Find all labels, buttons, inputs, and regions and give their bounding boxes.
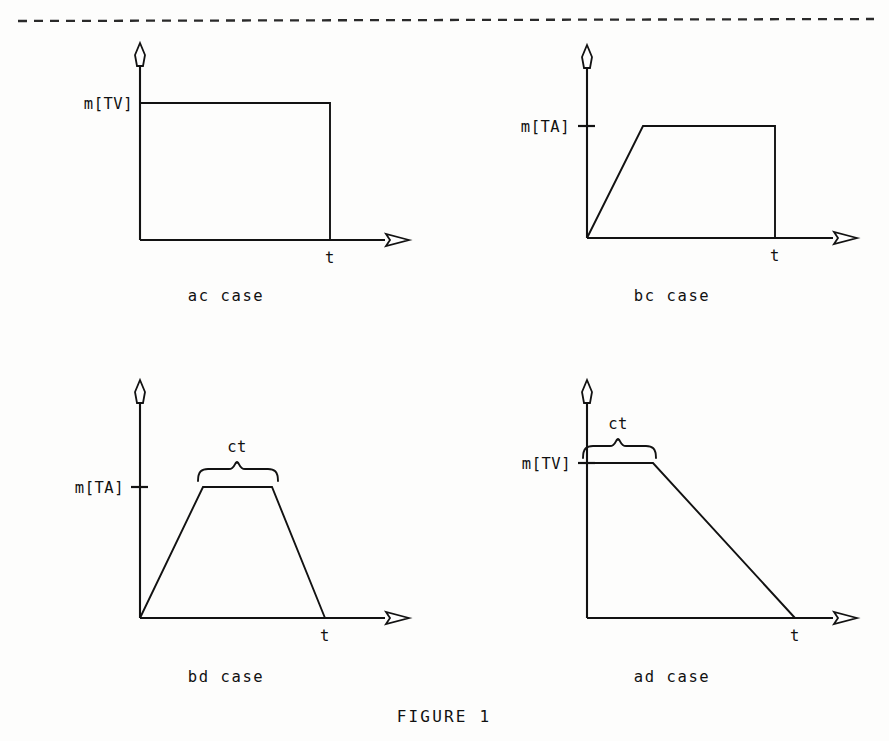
bc-case-label: bc case	[634, 287, 711, 305]
ad-x-axis-label: t	[790, 627, 800, 645]
x-axis-arrow-icon	[834, 612, 857, 624]
ac-y-axis	[135, 43, 145, 240]
bc-x-axis-label: t	[770, 247, 780, 265]
ad-case-label: ad case	[634, 668, 711, 686]
bd-y-axis-label: m[TA]	[75, 479, 124, 497]
chart-bc-case: m[TA] t bc case	[521, 45, 857, 305]
figure-canvas: m[TV] t ac case m[TA] t bc	[0, 0, 889, 741]
ac-x-axis-label: t	[325, 249, 335, 267]
ac-case-label: ac case	[188, 287, 265, 305]
figure-caption: FIGURE 1	[397, 707, 492, 726]
bc-y-axis-label: m[TA]	[521, 118, 570, 136]
ad-data-curve	[587, 463, 795, 618]
bd-ct-brace	[198, 462, 278, 481]
chart-ac-case: m[TV] t ac case	[84, 43, 409, 305]
ac-data-curve	[140, 103, 330, 240]
bc-y-axis	[578, 45, 595, 238]
y-axis-arrow-icon	[135, 380, 145, 403]
x-axis-arrow-icon	[386, 612, 409, 624]
ad-x-axis	[587, 612, 857, 624]
x-axis-arrow-icon	[834, 232, 857, 244]
bd-x-axis-label: t	[320, 627, 330, 645]
y-axis-arrow-icon	[135, 43, 145, 66]
figure-page: m[TV] t ac case m[TA] t bc	[0, 0, 889, 741]
chart-bd-case: ct m[TA] t bd case	[75, 380, 409, 686]
bd-y-axis	[131, 380, 148, 618]
ac-y-axis-label: m[TV]	[84, 95, 133, 113]
ad-ct-brace	[583, 439, 656, 458]
bd-data-curve	[140, 487, 325, 618]
ad-y-axis	[578, 380, 595, 618]
bd-case-label: bd case	[188, 668, 265, 686]
ad-brace-label: ct	[608, 415, 628, 433]
bc-data-curve	[587, 126, 775, 238]
bd-brace-label: ct	[227, 438, 247, 456]
bc-x-axis	[587, 232, 857, 244]
dashed-divider	[18, 19, 874, 21]
bd-x-axis	[140, 612, 409, 624]
x-axis-arrow-icon	[386, 234, 409, 246]
y-axis-arrow-icon	[582, 380, 592, 403]
y-axis-arrow-icon	[582, 45, 592, 68]
ac-x-axis	[140, 234, 409, 246]
chart-ad-case: ct m[TV] t ad case	[522, 380, 857, 686]
ad-y-axis-label: m[TV]	[522, 455, 571, 473]
